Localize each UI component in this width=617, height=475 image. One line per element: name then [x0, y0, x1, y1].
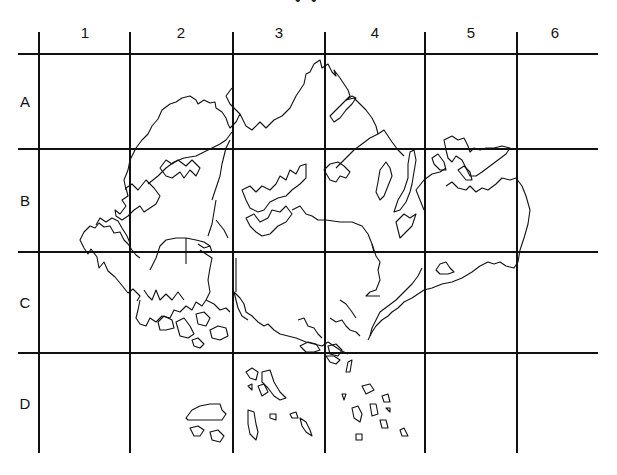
map-canvas: [0, 0, 617, 475]
grid-lines: [18, 32, 598, 453]
